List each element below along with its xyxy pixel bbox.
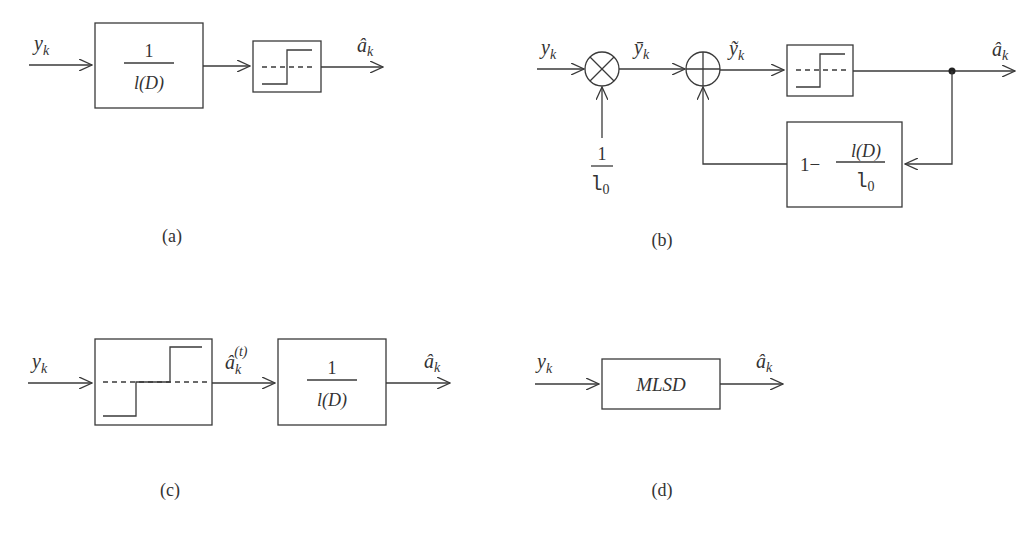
b-feedback-out-arrow xyxy=(703,87,787,164)
c-input-label: yk xyxy=(30,350,48,376)
b-feedback-numerator: l(D) xyxy=(851,141,881,162)
b-sum-label: ỹk xyxy=(727,37,745,63)
b-feedback-denominator: l0 xyxy=(855,170,874,194)
d-input-label: yk xyxy=(535,350,553,376)
diagram-b: yk 1 l0 ȳk ỹk âk 1− l(D) l0 ( xyxy=(537,36,1015,251)
a-filter-numerator: 1 xyxy=(145,41,154,61)
d-output-label: âk xyxy=(756,350,773,375)
b-feedback-in-arrow xyxy=(905,71,952,164)
c-output-label: âk xyxy=(424,350,441,375)
c-mid-label: âk(t) xyxy=(225,344,248,377)
a-caption: (a) xyxy=(162,226,182,247)
b-scaled-label: ȳk xyxy=(632,36,650,62)
receiver-structures-diagram: yk 1 l(D) âk (a) yk 1 l0 ȳk xyxy=(0,0,1035,539)
b-slicer-step-icon xyxy=(796,54,845,87)
c-caption: (c) xyxy=(160,480,180,501)
c-inverse-filter-block xyxy=(278,339,386,425)
a-filter-denominator: l(D) xyxy=(134,73,164,94)
b-gain-numerator: 1 xyxy=(598,144,607,164)
a-inverse-filter-block xyxy=(95,23,203,108)
b-adder-node xyxy=(686,52,720,86)
b-gain-denominator: l0 xyxy=(590,173,609,197)
d-mlsd-label: MLSD xyxy=(635,374,686,395)
b-input-label: yk xyxy=(539,36,557,62)
b-caption: (b) xyxy=(652,230,673,251)
a-slicer-step-icon xyxy=(262,50,312,84)
a-input-label: yk xyxy=(32,32,50,58)
a-output-label: âk xyxy=(357,34,374,59)
c-filter-denominator: l(D) xyxy=(317,390,347,411)
diagram-c: yk âk(t) 1 l(D) âk (c) xyxy=(28,339,450,501)
b-feedback-prefix: 1− xyxy=(800,154,820,175)
c-filter-numerator: 1 xyxy=(328,358,337,378)
diagram-d: yk MLSD âk (d) xyxy=(535,350,783,501)
b-multiplier-node xyxy=(585,52,619,86)
diagram-a: yk 1 l(D) âk (a) xyxy=(29,23,383,247)
d-caption: (d) xyxy=(652,480,673,501)
b-output-label: âk xyxy=(992,38,1009,63)
